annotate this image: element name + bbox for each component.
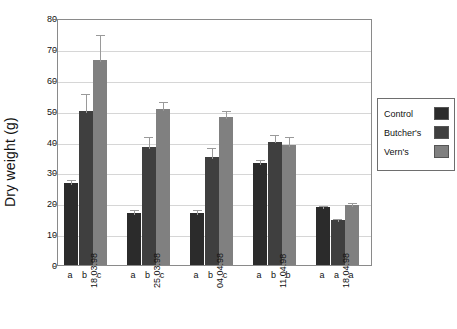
bar-control-18.04.98: [316, 207, 330, 265]
x-axis-category-label: 04.04.98: [215, 253, 225, 288]
bar-group: [64, 20, 107, 265]
bar-butchers-11.04.98: [268, 142, 282, 266]
error-bar: [289, 137, 290, 146]
error-bar-cap: [159, 102, 168, 103]
bar-control-25.03.98: [127, 213, 141, 265]
error-bar-cap: [319, 206, 328, 207]
legend-item: Butcher's: [384, 123, 449, 142]
y-axis-tick-mark: [53, 143, 57, 144]
error-bar-cap: [130, 210, 139, 211]
y-axis-title: Dry weight (g): [2, 0, 20, 92]
x-axis-category-label: 11.04.98: [278, 254, 288, 288]
error-bar-cap: [285, 137, 294, 138]
legend-item-label: Control: [384, 109, 413, 119]
legend-swatch: [434, 126, 449, 139]
legend: ControlButcher'sVern's: [377, 98, 455, 171]
error-bar-cap: [96, 35, 105, 36]
bar-butchers-25.03.98: [142, 147, 156, 265]
error-bar-cap: [207, 148, 216, 149]
error-bar-cap: [222, 111, 231, 112]
y-axis-tick-mark: [53, 19, 57, 20]
legend-item-label: Butcher's: [384, 128, 421, 138]
error-bar: [275, 135, 276, 144]
error-bar: [212, 148, 213, 159]
bar-group: [127, 20, 170, 265]
bar-verns-25.03.98: [156, 109, 170, 265]
bar-control-04.04.98: [190, 213, 204, 265]
legend-item: Vern's: [384, 142, 449, 161]
y-axis-tick-mark: [53, 112, 57, 113]
error-bar: [100, 35, 101, 62]
legend-item-label: Vern's: [384, 147, 409, 157]
bar-group: [190, 20, 233, 265]
bar-chart-figure: Dry weight (g) 01020304050607080 Control…: [0, 0, 457, 329]
error-bar-cap: [81, 94, 90, 95]
plot-area: [57, 19, 372, 266]
error-bar-cap: [270, 135, 279, 136]
error-bar-cap: [67, 180, 76, 181]
bar-group: [316, 20, 359, 265]
error-bar-cap: [144, 137, 153, 138]
legend-item: Control: [384, 104, 449, 123]
bar-verns-18.03.98: [93, 60, 107, 265]
x-axis-category-label: 25.03.98: [152, 253, 162, 288]
y-axis-tick-mark: [53, 173, 57, 174]
bar-control-18.03.98: [64, 183, 78, 265]
error-bar: [163, 102, 164, 111]
error-bar: [86, 94, 87, 113]
y-axis-tick-mark: [53, 50, 57, 51]
x-axis-category-label: 18.04.98: [341, 253, 351, 288]
x-axis-category-label: 18.03.98: [89, 253, 99, 288]
error-bar: [226, 111, 227, 119]
y-axis-tick-mark: [53, 204, 57, 205]
y-axis-tick-mark: [53, 266, 57, 267]
bar-verns-11.04.98: [282, 145, 296, 265]
bar-butchers-18.03.98: [79, 111, 93, 265]
y-axis: 01020304050607080: [20, 19, 57, 266]
error-bar-cap: [193, 210, 202, 211]
y-axis-tick-mark: [53, 81, 57, 82]
legend-swatch: [434, 107, 449, 120]
bar-control-11.04.98: [253, 163, 267, 265]
error-bar-cap: [333, 219, 342, 220]
bar-butchers-04.04.98: [205, 157, 219, 265]
bar-group: [253, 20, 296, 265]
bar-verns-04.04.98: [219, 117, 233, 265]
error-bar-cap: [348, 203, 357, 204]
y-axis-title-text: Dry weight (g): [2, 92, 18, 232]
y-axis-tick-mark: [53, 235, 57, 236]
legend-swatch: [434, 145, 449, 158]
error-bar: [149, 137, 150, 148]
error-bar-cap: [256, 160, 265, 161]
